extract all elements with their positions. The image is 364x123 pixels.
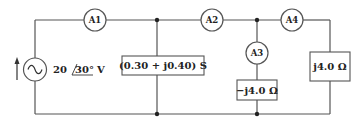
ammeter-a3: A3: [246, 42, 268, 64]
ammeter-a1: A1: [84, 9, 106, 31]
junction-dot: [155, 112, 159, 116]
svg-text:−j4.0 Ω: −j4.0 Ω: [236, 85, 278, 96]
svg-text:(0.30 + j0.40) S: (0.30 + j0.40) S: [119, 60, 207, 71]
up-arrow-icon: [15, 57, 20, 80]
source-magnitude: 20: [53, 64, 67, 75]
junction-dot: [155, 18, 159, 22]
junction-dot: [255, 18, 259, 22]
ammeter-a4: A4: [281, 9, 303, 31]
impedance-z3: j4.0 Ω: [310, 52, 350, 81]
source-unit: V: [96, 64, 105, 75]
impedance-z2: −j4.0 Ω: [236, 80, 278, 100]
source-angle: 30°: [75, 64, 94, 75]
svg-text:A1: A1: [88, 15, 102, 25]
svg-text:A4: A4: [285, 15, 299, 25]
ammeter-a2: A2: [201, 9, 223, 31]
junction-dot: [255, 112, 259, 116]
voltage-source: 20 30° V: [15, 57, 106, 81]
svg-text:j4.0 Ω: j4.0 Ω: [312, 61, 346, 72]
svg-text:A3: A3: [250, 48, 264, 58]
admittance-y1: (0.30 + j0.40) S: [119, 56, 207, 75]
svg-text:A2: A2: [205, 15, 219, 25]
circuit-diagram: 20 30° V A1 A2 A3 A4 (0.30 + j0.40) S −j…: [0, 0, 364, 123]
